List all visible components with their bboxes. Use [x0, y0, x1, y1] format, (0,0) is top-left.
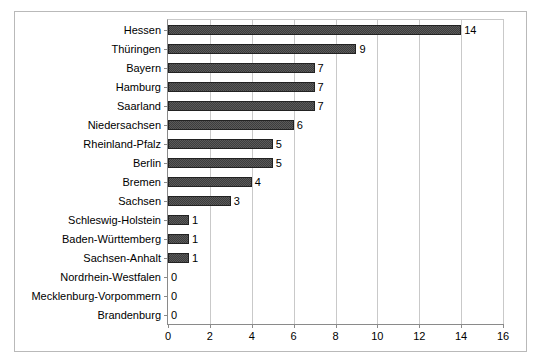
- bar: [168, 101, 315, 111]
- category-label: Brandenburg: [97, 308, 161, 322]
- category-label: Mecklenburg-Vorpommern: [31, 289, 161, 303]
- x-axis-tick: [210, 324, 211, 328]
- bar: [168, 44, 356, 54]
- bar-row: Brandenburg0: [168, 305, 503, 324]
- plot-area: Hessen14Thüringen9Bayern7Hamburg7Saarlan…: [167, 19, 504, 325]
- bar-value-label: 6: [297, 118, 303, 132]
- bar-row: Sachsen3: [168, 191, 503, 210]
- bar-rows: Hessen14Thüringen9Bayern7Hamburg7Saarlan…: [168, 20, 503, 324]
- bar-value-label: 0: [171, 270, 177, 284]
- x-axis-label: 6: [291, 330, 297, 343]
- bar: [168, 177, 252, 187]
- x-axis-tick: [252, 324, 253, 328]
- bar-value-label: 7: [318, 80, 324, 94]
- category-label: Rheinland-Pfalz: [83, 137, 161, 151]
- bar-value-label: 1: [192, 213, 198, 227]
- x-axis-label: 0: [165, 330, 171, 343]
- category-label: Sachsen: [118, 194, 161, 208]
- category-label: Thüringen: [111, 42, 161, 56]
- bar-value-label: 1: [192, 232, 198, 246]
- bar: [168, 158, 273, 168]
- x-axis-tick: [419, 324, 420, 328]
- category-label: Baden-Württemberg: [62, 232, 161, 246]
- bar-row: Berlin5: [168, 153, 503, 172]
- bar-value-label: 3: [234, 194, 240, 208]
- bar-row: Schleswig-Holstein1: [168, 210, 503, 229]
- x-axis-label: 10: [371, 330, 383, 343]
- bar: [168, 234, 189, 244]
- bar-row: Saarland7: [168, 96, 503, 115]
- bar-value-label: 7: [318, 61, 324, 75]
- bar-row: Bayern7: [168, 58, 503, 77]
- category-label: Nordrhein-Westfalen: [60, 270, 161, 284]
- category-label: Hessen: [124, 23, 161, 37]
- bar-row: Niedersachsen6: [168, 115, 503, 134]
- bar-row: Baden-Württemberg1: [168, 229, 503, 248]
- bar-row: Nordrhein-Westfalen0: [168, 267, 503, 286]
- x-axis-label: 12: [413, 330, 425, 343]
- category-tick: [164, 315, 168, 316]
- bar: [168, 120, 294, 130]
- x-axis-tick: [503, 324, 504, 328]
- x-axis-label: 4: [249, 330, 255, 343]
- category-label: Niedersachsen: [88, 118, 161, 132]
- chart-frame: Hessen14Thüringen9Bayern7Hamburg7Saarlan…: [14, 11, 527, 352]
- bar-value-label: 14: [464, 23, 476, 37]
- bar-value-label: 9: [359, 42, 365, 56]
- gridline: [503, 20, 504, 324]
- bar-value-label: 5: [276, 156, 282, 170]
- bar: [168, 253, 189, 263]
- x-axis-tick: [168, 324, 169, 328]
- bar-row: Rheinland-Pfalz5: [168, 134, 503, 153]
- bar-value-label: 5: [276, 137, 282, 151]
- bar: [168, 25, 461, 35]
- x-axis-label: 14: [455, 330, 467, 343]
- x-axis-tick: [294, 324, 295, 328]
- bar-value-label: 4: [255, 175, 261, 189]
- category-label: Schleswig-Holstein: [68, 213, 161, 227]
- category-label: Sachsen-Anhalt: [83, 251, 161, 265]
- category-label: Hamburg: [116, 80, 161, 94]
- x-axis-label: 2: [207, 330, 213, 343]
- category-tick: [164, 277, 168, 278]
- bar: [168, 215, 189, 225]
- category-label: Bayern: [126, 61, 161, 75]
- bar-row: Hamburg7: [168, 77, 503, 96]
- bar-value-label: 1: [192, 251, 198, 265]
- bar-value-label: 0: [171, 289, 177, 303]
- category-label: Saarland: [117, 99, 161, 113]
- bar: [168, 63, 315, 73]
- bar: [168, 139, 273, 149]
- bar-row: Thüringen9: [168, 39, 503, 58]
- category-label: Bremen: [122, 175, 161, 189]
- bar-row: Hessen14: [168, 20, 503, 39]
- bar-row: Sachsen-Anhalt1: [168, 248, 503, 267]
- x-axis-tick: [336, 324, 337, 328]
- x-axis-label: 8: [332, 330, 338, 343]
- x-axis-label: 16: [497, 330, 509, 343]
- bar: [168, 196, 231, 206]
- bar-row: Mecklenburg-Vorpommern0: [168, 286, 503, 305]
- bar-value-label: 7: [318, 99, 324, 113]
- x-axis-tick: [461, 324, 462, 328]
- x-axis-tick: [377, 324, 378, 328]
- bar: [168, 82, 315, 92]
- bar-value-label: 0: [171, 308, 177, 322]
- category-tick: [164, 296, 168, 297]
- category-label: Berlin: [133, 156, 161, 170]
- bar-row: Bremen4: [168, 172, 503, 191]
